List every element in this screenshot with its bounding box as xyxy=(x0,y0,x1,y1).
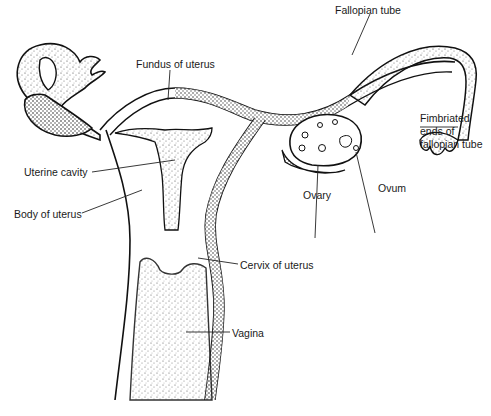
label-ovum: Ovum xyxy=(378,182,406,194)
left-fallopian-tube xyxy=(17,44,105,140)
label-fimbriated-line3: fallopian tube xyxy=(420,138,482,150)
label-body-of-uterus: Body of uterus xyxy=(14,208,82,220)
label-fallopian-tube: Fallopian tube xyxy=(335,4,401,16)
label-fundus-of-uterus: Fundus of uterus xyxy=(136,58,215,70)
uterus-wall xyxy=(100,61,455,135)
label-vagina: Vagina xyxy=(232,327,264,339)
label-fimbriated-line2: ends of xyxy=(420,125,454,137)
uterine-cavity xyxy=(115,128,212,230)
label-uterine-cavity: Uterine cavity xyxy=(24,166,88,178)
label-ovary: Ovary xyxy=(303,189,331,201)
cervix-vagina xyxy=(130,258,212,400)
label-fimbriated-line1: Fimbriated xyxy=(420,112,470,124)
label-cervix-of-uterus: Cervix of uterus xyxy=(240,259,314,271)
